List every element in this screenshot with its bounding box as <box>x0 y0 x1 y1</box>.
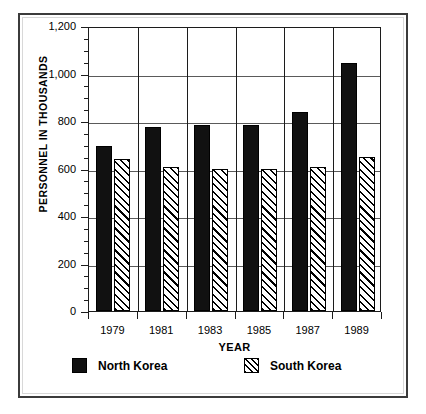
legend-item-north-korea: North Korea <box>72 358 167 373</box>
x-axis-tick <box>332 312 333 319</box>
bar-south-korea-1981 <box>163 167 179 311</box>
legend-item-south-korea: South Korea <box>244 358 341 373</box>
x-axis-title: YEAR <box>88 341 381 353</box>
bar-south-korea-1983 <box>212 169 228 312</box>
bar-north-korea-1989 <box>341 63 357 311</box>
y-axis-tick <box>81 312 88 313</box>
x-axis-tick <box>88 312 89 319</box>
x-axis-label: 1987 <box>283 324 333 336</box>
y-axis-label: 600 <box>16 164 76 175</box>
gridline-vertical <box>284 28 285 311</box>
y-axis-tick <box>81 217 88 218</box>
x-axis-label: 1989 <box>332 324 382 336</box>
y-axis-label: 0 <box>16 306 76 317</box>
y-axis-tick <box>81 265 88 266</box>
y-axis-label: 400 <box>16 211 76 222</box>
legend-swatch-south-korea <box>244 358 259 373</box>
bar-south-korea-1989 <box>359 157 375 311</box>
y-axis-tick <box>81 122 88 123</box>
plot-area <box>88 27 381 312</box>
y-axis-tick <box>81 27 88 28</box>
gridline-vertical <box>138 28 139 311</box>
y-axis-tick <box>81 75 88 76</box>
gridline-horizontal <box>89 123 380 124</box>
x-axis-label: 1981 <box>136 324 186 336</box>
bar-north-korea-1987 <box>292 112 308 312</box>
legend-label-south-korea: South Korea <box>270 359 341 373</box>
y-axis-label: 1,000 <box>16 69 76 80</box>
gridline-vertical <box>187 28 188 311</box>
bar-south-korea-1979 <box>114 159 130 311</box>
y-axis-title: PERSONNEL IN THOUSANDS <box>37 29 49 239</box>
x-axis-tick <box>381 312 382 319</box>
gridline-horizontal <box>89 218 380 219</box>
y-axis-label: 800 <box>16 116 76 127</box>
y-axis-tick <box>81 170 88 171</box>
bar-north-korea-1985 <box>243 125 259 311</box>
bar-chart: PERSONNEL IN THOUSANDS 02004006008001,00… <box>0 0 426 414</box>
bar-south-korea-1987 <box>310 167 326 311</box>
x-axis-label: 1983 <box>185 324 235 336</box>
bar-south-korea-1985 <box>261 169 277 311</box>
bar-north-korea-1981 <box>145 127 161 311</box>
y-axis-label: 1,200 <box>16 21 76 32</box>
x-axis-label: 1979 <box>87 324 137 336</box>
x-axis-tick <box>235 312 236 319</box>
bar-north-korea-1979 <box>96 146 112 311</box>
gridline-vertical <box>333 28 334 311</box>
x-axis-tick <box>283 312 284 319</box>
gridline-vertical <box>236 28 237 311</box>
legend-label-north-korea: North Korea <box>98 359 167 373</box>
gridline-horizontal <box>89 171 380 172</box>
chart-legend: North Korea South Korea <box>60 358 380 382</box>
legend-swatch-north-korea <box>72 358 87 373</box>
gridline-horizontal <box>89 76 380 77</box>
bar-north-korea-1983 <box>194 125 210 311</box>
x-axis-label: 1985 <box>234 324 284 336</box>
gridline-horizontal <box>89 266 380 267</box>
x-axis-tick <box>186 312 187 319</box>
x-axis-tick <box>137 312 138 319</box>
y-axis-label: 200 <box>16 259 76 270</box>
